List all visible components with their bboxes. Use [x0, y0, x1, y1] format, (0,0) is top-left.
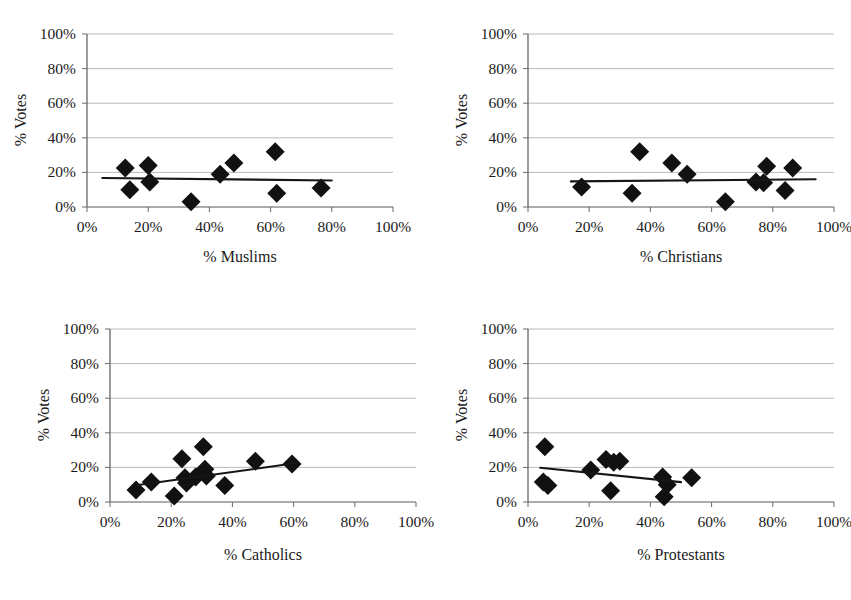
xtick-label: 100%: [816, 218, 851, 235]
xtick-label: 40%: [218, 513, 247, 530]
xtick-label: 0%: [100, 513, 121, 530]
xtick-label: 20%: [134, 218, 163, 235]
figure-four-scatter-panels: 100% 80% 60% 40% 20% 0% 0% 20% 40% 60% 8…: [0, 0, 851, 600]
panel-catholics: 100% 80% 60% 40% 20% 0% 0% 20% 40% 60% 8…: [23, 305, 449, 595]
y-axis-title-muslims: % Votes: [12, 94, 29, 146]
ytick-label: 0%: [496, 493, 517, 510]
ytick-label: 60%: [48, 94, 77, 111]
xtick-label: 0%: [518, 218, 539, 235]
xtick-label: 80%: [318, 218, 347, 235]
xtick-label: 0%: [518, 513, 539, 530]
xtick-label: 40%: [636, 218, 665, 235]
ytick-label: 0%: [78, 493, 99, 510]
ytick-label: 100%: [40, 25, 76, 42]
data-point-marker: [535, 437, 554, 456]
ytick-label: 0%: [496, 198, 517, 215]
data-point-marker: [116, 159, 135, 178]
data-point-marker: [211, 165, 230, 184]
xtick-label: 100%: [816, 513, 851, 530]
scatter-svg-christians: 100% 80% 60% 40% 20% 0% 0% 20% 40% 60% 8…: [426, 10, 851, 300]
ytick-label: 40%: [489, 129, 518, 146]
xtick-labels-catholics: 0% 20% 40% 60% 80% 100%: [100, 513, 435, 530]
xtick-labels-protestants: 0% 20% 40% 60% 80% 100%: [518, 513, 851, 530]
scatter-svg-catholics: 100% 80% 60% 40% 20% 0% 0% 20% 40% 60% 8…: [23, 305, 449, 595]
data-point-marker: [630, 142, 649, 161]
axes-protestants: [523, 329, 834, 507]
trendline-muslims: [102, 178, 331, 181]
data-point-marker: [783, 159, 802, 178]
ytick-labels-muslims: 100% 80% 60% 40% 20% 0%: [40, 25, 76, 215]
data-point-marker: [682, 468, 701, 487]
data-points-catholics: [127, 437, 302, 505]
data-points-protestants: [534, 437, 701, 506]
xtick-label: 100%: [375, 218, 411, 235]
panel-protestants: 100% 80% 60% 40% 20% 0% 0% 20% 40% 60% 8…: [449, 305, 851, 595]
ytick-labels-catholics: 100% 80% 60% 40% 20% 0%: [63, 320, 99, 510]
data-point-marker: [623, 184, 642, 203]
scatter-svg-protestants: 100% 80% 60% 40% 20% 0% 0% 20% 40% 60% 8…: [449, 305, 851, 595]
x-axis-title-muslims: % Muslims: [203, 248, 276, 265]
ytick-label: 20%: [71, 458, 100, 475]
data-point-marker: [127, 480, 146, 499]
ytick-label: 60%: [489, 389, 518, 406]
x-axis-title-christians: % Christians: [640, 248, 722, 265]
ytick-label: 40%: [489, 424, 518, 441]
data-point-marker: [120, 180, 139, 199]
ytick-label: 60%: [71, 389, 100, 406]
ytick-label: 80%: [71, 355, 100, 372]
data-point-marker: [716, 192, 735, 211]
data-point-marker: [601, 481, 620, 500]
ytick-label: 40%: [71, 424, 100, 441]
data-point-marker: [140, 172, 159, 191]
data-point-marker: [757, 157, 776, 176]
xtick-label: 80%: [759, 218, 788, 235]
xtick-label: 100%: [398, 513, 434, 530]
ytick-label: 20%: [48, 163, 77, 180]
xtick-label: 20%: [575, 218, 604, 235]
xtick-label: 60%: [697, 218, 726, 235]
panel-muslims: 100% 80% 60% 40% 20% 0% 0% 20% 40% 60% 8…: [0, 10, 426, 300]
data-points-christians: [572, 142, 802, 211]
y-axis-title-protestants: % Votes: [453, 389, 470, 441]
ytick-label: 100%: [63, 320, 99, 337]
gridlines-protestants: [528, 329, 834, 467]
ytick-label: 40%: [48, 129, 77, 146]
ytick-labels-protestants: 100% 80% 60% 40% 20% 0%: [481, 320, 517, 510]
xtick-label: 40%: [195, 218, 224, 235]
ytick-label: 20%: [489, 163, 518, 180]
data-point-marker: [267, 184, 286, 203]
data-point-marker: [194, 437, 213, 456]
xtick-label: 20%: [575, 513, 604, 530]
y-axis-title-christians: % Votes: [453, 94, 470, 146]
ytick-labels-christians: 100% 80% 60% 40% 20% 0%: [481, 25, 517, 215]
data-point-marker: [172, 449, 191, 468]
ytick-label: 80%: [489, 355, 518, 372]
ytick-label: 80%: [489, 60, 518, 77]
data-point-marker: [662, 153, 681, 172]
gridlines-muslims: [87, 34, 393, 172]
data-point-marker: [266, 142, 285, 161]
xtick-label: 60%: [256, 218, 285, 235]
xtick-label: 40%: [636, 513, 665, 530]
x-axis-title-catholics: % Catholics: [224, 546, 302, 563]
xtick-label: 0%: [77, 218, 98, 235]
scatter-svg-muslims: 100% 80% 60% 40% 20% 0% 0% 20% 40% 60% 8…: [0, 10, 426, 300]
trendline-christians: [571, 179, 816, 181]
data-point-marker: [215, 476, 234, 495]
ytick-label: 20%: [489, 458, 518, 475]
x-axis-title-protestants: % Protestants: [637, 546, 725, 563]
ytick-label: 100%: [481, 320, 517, 337]
panel-christians: 100% 80% 60% 40% 20% 0% 0% 20% 40% 60% 8…: [426, 10, 851, 300]
trendline-catholics: [134, 463, 296, 485]
data-point-marker: [581, 460, 600, 479]
ytick-label: 80%: [48, 60, 77, 77]
xtick-label: 80%: [341, 513, 370, 530]
xtick-label: 80%: [759, 513, 788, 530]
data-point-marker: [182, 192, 201, 211]
data-point-marker: [224, 153, 243, 172]
ytick-label: 0%: [55, 198, 76, 215]
y-axis-title-catholics: % Votes: [35, 389, 52, 441]
xtick-labels-muslims: 0% 20% 40% 60% 80% 100%: [77, 218, 412, 235]
xtick-label: 20%: [157, 513, 186, 530]
ytick-label: 60%: [489, 94, 518, 111]
